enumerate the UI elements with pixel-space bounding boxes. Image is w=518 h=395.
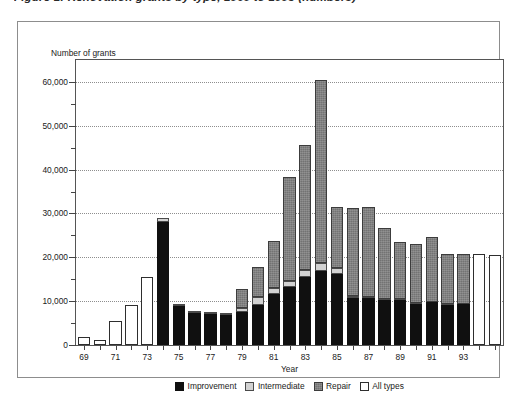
- x-tick-label: 71: [111, 352, 120, 362]
- x-tick: [242, 346, 243, 350]
- x-tick: [147, 346, 148, 350]
- bar-segment-intermediate: [204, 312, 216, 314]
- bar-segment-intermediate: [347, 296, 359, 298]
- bar-segment-improvement: [268, 294, 280, 345]
- bar-segment-repair: [457, 254, 469, 304]
- y-tick-major: [69, 82, 76, 83]
- bar-group[interactable]: [157, 60, 169, 345]
- x-tick: [400, 346, 401, 350]
- bar-group[interactable]: [125, 60, 137, 345]
- bar-group[interactable]: [426, 60, 438, 345]
- bar-group[interactable]: [220, 60, 232, 345]
- bar-segment-improvement: [283, 287, 295, 345]
- x-tick: [337, 346, 338, 350]
- bar-group[interactable]: [441, 60, 453, 345]
- bar-group[interactable]: [410, 60, 422, 345]
- bar-segment-all-types: [473, 254, 485, 345]
- bar-segment-repair: [394, 242, 406, 299]
- bar-segment-repair: [441, 254, 453, 304]
- bar-group[interactable]: [94, 60, 106, 345]
- bar-group[interactable]: [109, 60, 121, 345]
- bar-segment-intermediate: [220, 313, 232, 315]
- legend-swatch-icon: [245, 382, 254, 391]
- x-tick: [305, 346, 306, 350]
- y-tick-minor: [71, 279, 76, 280]
- x-tick-label: 81: [269, 352, 278, 362]
- bar-group[interactable]: [188, 60, 200, 345]
- bar-segment-all-types: [141, 277, 153, 345]
- bar-segment-intermediate: [173, 304, 185, 306]
- legend-item-intermediate[interactable]: Intermediate: [245, 381, 304, 391]
- y-tick-major: [69, 213, 76, 214]
- x-tick: [274, 346, 275, 350]
- bar-group[interactable]: [315, 60, 327, 345]
- x-axis-ticks: [75, 346, 504, 351]
- bar-segment-repair: [252, 267, 264, 297]
- bar-segment-improvement: [378, 300, 390, 345]
- bar-segment-improvement: [331, 274, 343, 345]
- bar-segment-intermediate: [188, 311, 200, 313]
- plot-inner: [76, 60, 503, 345]
- bar-group[interactable]: [236, 60, 248, 345]
- bar-segment-repair: [426, 237, 438, 302]
- bar-group[interactable]: [489, 60, 501, 345]
- y-tick-label: 60,000: [42, 77, 68, 87]
- bar-group[interactable]: [331, 60, 343, 345]
- bar-group[interactable]: [268, 60, 280, 345]
- legend-label: Improvement: [188, 381, 237, 391]
- legend-item-all-types[interactable]: All types: [360, 381, 404, 391]
- bar-group[interactable]: [204, 60, 216, 345]
- bar-segment-improvement: [204, 314, 216, 345]
- legend-label: Intermediate: [258, 381, 305, 391]
- bar-segment-improvement: [441, 305, 453, 345]
- y-tick-label: 0: [63, 340, 68, 350]
- y-tick-label: 50,000: [42, 121, 68, 131]
- bar-segment-all-types: [489, 255, 501, 345]
- bar-segment-all-types: [94, 340, 106, 345]
- bar-group[interactable]: [347, 60, 359, 345]
- bar-segment-improvement: [299, 277, 311, 345]
- bar-group[interactable]: [173, 60, 185, 345]
- bar-series: [76, 60, 503, 345]
- bar-group[interactable]: [141, 60, 153, 345]
- bar-group[interactable]: [252, 60, 264, 345]
- y-tick-major: [69, 257, 76, 258]
- x-tick: [353, 346, 354, 350]
- legend-item-improvement[interactable]: Improvement: [175, 381, 236, 391]
- bar-segment-intermediate: [157, 218, 169, 222]
- bar-group[interactable]: [394, 60, 406, 345]
- x-tick-label: 89: [396, 352, 405, 362]
- bar-group[interactable]: [78, 60, 90, 345]
- bar-segment-all-types: [125, 305, 137, 345]
- bar-segment-repair: [347, 208, 359, 296]
- bar-group[interactable]: [299, 60, 311, 345]
- x-tick: [226, 346, 227, 350]
- bar-segment-intermediate: [283, 281, 295, 288]
- y-tick-label: 30,000: [42, 208, 68, 218]
- x-tick-label: 73: [142, 352, 151, 362]
- bar-group[interactable]: [283, 60, 295, 345]
- legend-item-repair[interactable]: Repair: [314, 381, 351, 391]
- x-tick-label: 87: [364, 352, 373, 362]
- y-tick-minor: [71, 148, 76, 149]
- y-tick-minor: [71, 235, 76, 236]
- x-tick-label: 83: [301, 352, 310, 362]
- bar-segment-improvement: [252, 305, 264, 345]
- bar-segment-repair: [331, 207, 343, 268]
- x-tick: [495, 346, 496, 350]
- x-tick: [116, 346, 117, 350]
- bar-group[interactable]: [362, 60, 374, 345]
- bar-segment-improvement: [362, 298, 374, 345]
- chart-panel: Number of grants 010,00020,00030,00040,0…: [17, 21, 500, 378]
- legend-label: Repair: [326, 381, 351, 391]
- y-tick-minor: [71, 192, 76, 193]
- legend-swatch-icon: [360, 382, 369, 391]
- x-axis-caption: Year: [75, 364, 504, 374]
- bar-group[interactable]: [473, 60, 485, 345]
- bar-group[interactable]: [457, 60, 469, 345]
- bar-segment-repair: [315, 80, 327, 263]
- bar-group[interactable]: [378, 60, 390, 345]
- x-tick: [448, 346, 449, 350]
- x-tick: [384, 346, 385, 350]
- y-tick-major: [69, 301, 76, 302]
